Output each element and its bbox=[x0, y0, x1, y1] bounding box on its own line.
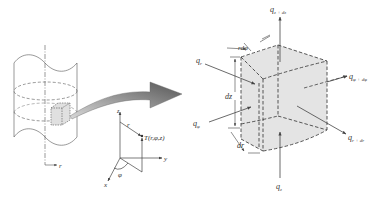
rdphi-dim-right bbox=[260, 36, 270, 42]
q-phi-dphi-label: qφ + dφ bbox=[349, 72, 367, 82]
cylinder-top-edge bbox=[14, 55, 77, 72]
q-phi-label: qφ bbox=[193, 119, 200, 129]
point-label: T(r,φ,z) bbox=[144, 134, 165, 142]
dz-label: dz bbox=[225, 92, 233, 101]
y-axis-label: y bbox=[163, 155, 168, 163]
q-r-label: qr bbox=[196, 56, 202, 66]
angle-label: φ bbox=[118, 171, 122, 179]
transition-arrow bbox=[70, 82, 182, 119]
cylindrical-coordinates-diagram: r z y x r φ T(r,φ,z) bbox=[0, 0, 382, 201]
projection-line bbox=[120, 158, 142, 172]
rdphi-label: rdφ bbox=[238, 44, 248, 52]
cylinder-r-label: r bbox=[59, 162, 62, 170]
radius-label: r bbox=[127, 121, 130, 129]
q-r-dr-label: qr + dr bbox=[348, 133, 364, 143]
cylinder-dashed-ring-top bbox=[14, 82, 77, 100]
q-z-dz-label: qz + dz bbox=[270, 5, 286, 15]
cylinder-bottom-edge bbox=[14, 129, 77, 146]
z-axis-label: z bbox=[116, 108, 120, 114]
q-z-label: qz bbox=[276, 182, 282, 192]
cylinder-small-element bbox=[51, 103, 70, 125]
point-t bbox=[141, 135, 143, 137]
radius-vector bbox=[120, 122, 141, 136]
x-axis-label: x bbox=[103, 181, 108, 189]
coordinate-system bbox=[108, 112, 162, 181]
element-fill bbox=[241, 45, 327, 151]
dr-label: dr bbox=[237, 141, 245, 150]
cylinder bbox=[14, 45, 77, 165]
